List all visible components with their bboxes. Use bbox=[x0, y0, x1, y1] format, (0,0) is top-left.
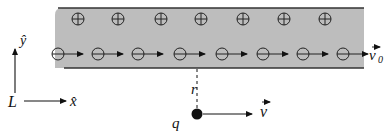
y-hat-label: ŷ bbox=[18, 33, 27, 48]
positive-charge-icon bbox=[278, 13, 290, 25]
diagram-canvas: v 0 r q v ŷ L x̂ bbox=[0, 0, 392, 135]
x-hat-label: x̂ bbox=[69, 93, 77, 109]
positive-charge-icon bbox=[237, 13, 249, 25]
positive-charge-icon bbox=[112, 13, 124, 25]
r-label: r bbox=[191, 81, 197, 97]
svg-text:v: v bbox=[260, 103, 268, 120]
point-charge bbox=[192, 109, 203, 120]
positive-charge-icon bbox=[195, 13, 207, 25]
v-label: v bbox=[260, 102, 270, 120]
q-label: q bbox=[172, 115, 180, 131]
L-label: L bbox=[7, 93, 17, 110]
v0-label: v 0 bbox=[369, 47, 383, 65]
positive-charge-icon bbox=[155, 13, 167, 25]
positive-charge-icon bbox=[72, 13, 84, 25]
positive-charge-icon bbox=[319, 13, 331, 25]
v0-subscript: 0 bbox=[378, 54, 383, 65]
v0-text: v bbox=[369, 47, 376, 63]
